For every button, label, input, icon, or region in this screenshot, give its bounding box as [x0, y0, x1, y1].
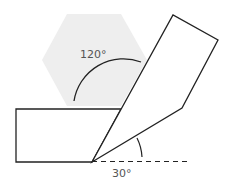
angle-diagram: 120° 30°: [0, 0, 234, 186]
arc-30-degrees: [137, 138, 142, 157]
diagram-canvas: 120° 30°: [0, 0, 234, 186]
label-30-degrees: 30°: [112, 167, 132, 180]
label-120-degrees: 120°: [80, 48, 107, 61]
